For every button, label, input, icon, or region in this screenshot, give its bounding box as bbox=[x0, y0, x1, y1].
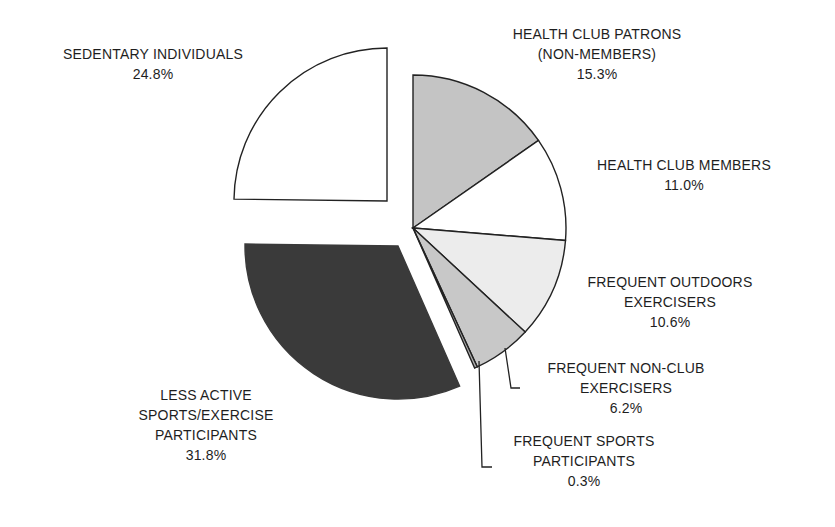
pie-slices bbox=[234, 48, 566, 399]
label-health-club-patrons: HEALTH CLUB PATRONS (NON-MEMBERS) 15.3% bbox=[482, 24, 712, 84]
label-sedentary: SEDENTARY INDIVIDUALS 24.8% bbox=[32, 44, 274, 84]
label-frequent-sports: FREQUENT SPORTS PARTICIPANTS 0.3% bbox=[484, 431, 684, 491]
label-frequent-non-club: FREQUENT NON-CLUB EXERCISERS 6.2% bbox=[516, 358, 736, 418]
label-health-club-members: HEALTH CLUB MEMBERS 11.0% bbox=[564, 155, 804, 195]
label-frequent-outdoors: FREQUENT OUTDOORS EXERCISERS 10.6% bbox=[555, 272, 785, 332]
slice-less-active-sports-exercise-participants bbox=[245, 244, 460, 399]
label-less-active: LESS ACTIVE SPORTS/EXERCISE PARTICIPANTS… bbox=[106, 385, 306, 465]
